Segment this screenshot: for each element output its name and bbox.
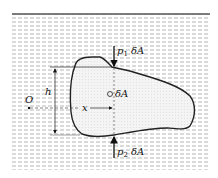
element-area-label: δA [115, 88, 128, 99]
origin-label: O [25, 94, 33, 105]
origin-point [28, 107, 30, 109]
h-label: h [45, 86, 51, 97]
x-label: x [82, 102, 88, 113]
buoyancy-diagram: h O x δA p1 δA p2 δA [0, 0, 218, 178]
